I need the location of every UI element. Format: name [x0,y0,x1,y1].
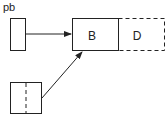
box-d-dashed [119,19,165,51]
box-d-label: D [133,29,142,43]
box-b-label: B [88,29,96,43]
pointer-box-top [11,19,26,51]
diagram-canvas: pb B D [0,0,167,119]
arrow-bottom-to-b [42,52,82,98]
pb-label: pb [3,1,15,13]
